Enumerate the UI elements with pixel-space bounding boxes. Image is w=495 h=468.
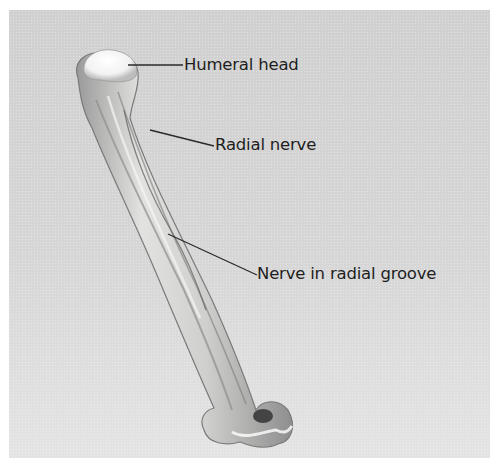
label-humeral-head: Humeral head: [184, 55, 299, 74]
olecranon-fossa: [253, 409, 273, 423]
leader-line-radial-nerve: [150, 130, 214, 146]
label-nerve-in-radial-groove: Nerve in radial groove: [257, 264, 436, 283]
humeral-head-shape: [84, 50, 137, 82]
humerus-bone: [77, 50, 293, 447]
label-radial-nerve: Radial nerve: [215, 135, 316, 154]
